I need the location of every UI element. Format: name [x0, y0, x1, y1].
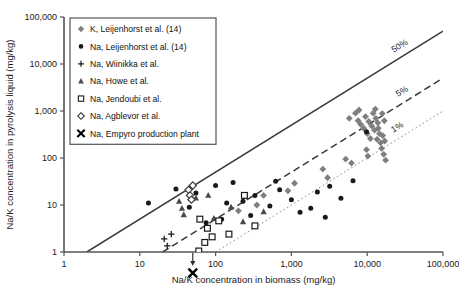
legend-item-label: Na, Jendoubi et al.	[90, 94, 162, 104]
below-detection-arrow-head	[190, 261, 195, 266]
marker-diamond-filled	[348, 160, 355, 167]
y-tick-label: 10	[47, 200, 57, 210]
y-tick-label: 100	[42, 153, 57, 163]
marker-square-open	[78, 96, 83, 101]
x-tick-label: 1,000	[280, 259, 303, 269]
y-tick-label: 1	[52, 247, 57, 257]
marker-triangle	[176, 198, 182, 204]
marker-diamond-filled	[342, 156, 349, 163]
marker-circle-filled	[173, 186, 178, 191]
marker-diamond-filled	[253, 202, 260, 209]
marker-circle-filled	[248, 213, 253, 218]
marker-circle-filled	[79, 44, 84, 49]
legend-item-label: Na, Agblevor et al.	[90, 111, 160, 121]
marker-square-open	[209, 234, 215, 240]
line-label-50pct: 50%	[390, 37, 410, 55]
marker-diamond-filled	[381, 117, 388, 124]
marker-triangle	[205, 192, 211, 198]
legend-item-label: Na, Empyro production plant	[90, 129, 200, 139]
legend-group: K, Leijenhorst et al. (14)Na, Leijenhors…	[70, 18, 216, 144]
marker-circle-filled	[327, 184, 332, 189]
marker-diamond-filled	[235, 207, 242, 214]
marker-circle-filled	[323, 215, 328, 220]
y-axis-title: Na/K concentration in pyrolysis liquid (…	[4, 39, 15, 229]
legend-item-label: Na, Leijenhorst et al. (14)	[90, 42, 187, 52]
marker-circle-filled	[187, 205, 192, 210]
marker-diamond-filled	[363, 146, 370, 153]
marker-triangle	[179, 205, 185, 211]
x-tick-label: 100,000	[427, 259, 460, 269]
reference-line-1pct	[216, 111, 443, 252]
marker-square-open	[216, 218, 222, 224]
x-axis-title: Na/K concentration in biomass (mg/kg)	[172, 274, 336, 285]
marker-square-open	[226, 231, 232, 237]
legend-item-label: K, Leijenhorst et al. (14)	[90, 24, 181, 34]
marker-square-open	[196, 248, 202, 254]
marker-diamond-filled	[380, 151, 387, 158]
marker-circle-filled	[224, 201, 229, 206]
legend-item-4[interactable]: Na, Jendoubi et al.	[78, 94, 161, 104]
line-label-5pct: 5%	[394, 83, 410, 98]
series-0	[235, 106, 389, 215]
figure-container: 1101001,00010,000100,0001101001,00010,00…	[0, 0, 470, 297]
legend-item-5[interactable]: Na, Agblevor et al.	[78, 111, 161, 121]
marker-triangle	[260, 208, 266, 214]
marker-plus	[168, 231, 174, 237]
y-tick-label: 10,000	[29, 59, 57, 69]
marker-square-open	[205, 225, 211, 231]
marker-diamond-filled	[260, 192, 267, 199]
marker-square-open	[202, 240, 208, 246]
legend-item-label: Na, Wiinikka et al.	[90, 59, 159, 69]
marker-circle-filled	[241, 199, 246, 204]
marker-circle-filled	[289, 197, 294, 202]
marker-circle-filled	[298, 210, 303, 215]
marker-plus	[164, 243, 170, 249]
y-tick-label: 100,000	[24, 12, 57, 22]
marker-circle-filled	[146, 201, 151, 206]
marker-circle-filled	[351, 178, 356, 183]
marker-triangle	[240, 218, 246, 224]
marker-circle-filled	[315, 189, 320, 194]
legend-item-6[interactable]: Na, Empyro production plant	[77, 129, 199, 139]
marker-diamond-filled	[382, 157, 389, 164]
marker-circle-filled	[231, 180, 236, 185]
marker-triangle	[228, 204, 234, 210]
marker-circle-filled	[273, 179, 278, 184]
marker-diamond-filled	[319, 166, 326, 173]
marker-circle-filled	[267, 204, 272, 209]
marker-square-open	[197, 216, 203, 222]
marker-circle-filled	[338, 196, 343, 201]
marker-diamond-filled	[285, 187, 292, 194]
marker-diamond-filled	[324, 174, 331, 181]
x-tick-label: 10	[135, 259, 145, 269]
marker-diamond-filled	[379, 110, 386, 117]
y-tick-label: 1,000	[34, 106, 57, 116]
marker-diamond-filled	[378, 145, 385, 152]
legend-item-0[interactable]: K, Leijenhorst et al. (14)	[78, 24, 182, 34]
marker-circle-filled	[204, 220, 209, 225]
x-tick-label: 1	[61, 259, 66, 269]
reference-line-labels-group: 50%5%1%	[389, 37, 410, 135]
x-tick-label: 10,000	[353, 259, 381, 269]
marker-circle-filled	[277, 187, 282, 192]
line-label-1pct: 1%	[389, 119, 405, 134]
marker-diamond-filled	[291, 180, 298, 187]
scatter-plot-svg: 1101001,00010,000100,0001101001,00010,00…	[0, 0, 470, 297]
marker-circle-filled	[252, 193, 257, 198]
marker-square-open	[252, 223, 258, 229]
marker-diamond-filled	[346, 115, 353, 122]
marker-diamond-filled	[364, 153, 371, 160]
x-tick-label: 100	[208, 259, 223, 269]
marker-circle-filled	[364, 129, 369, 134]
marker-triangle	[181, 211, 187, 217]
marker-circle-filled	[308, 206, 313, 211]
legend-item-1[interactable]: Na, Leijenhorst et al. (14)	[79, 42, 187, 52]
marker-plus	[161, 236, 167, 242]
legend-item-label: Na, Howe et al.	[90, 76, 149, 86]
marker-square-open	[242, 193, 248, 199]
marker-circle-filled	[213, 183, 218, 188]
legend-item-2[interactable]: Na, Wiinikka et al.	[78, 59, 159, 69]
